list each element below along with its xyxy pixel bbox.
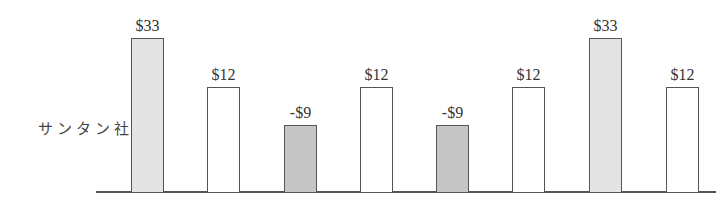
row-label: サンタン社 bbox=[38, 117, 133, 138]
bar-1 bbox=[131, 38, 164, 192]
bar-3 bbox=[284, 125, 317, 192]
bar-6 bbox=[512, 87, 545, 192]
bar-value-label: $12 bbox=[347, 66, 407, 84]
bar-4 bbox=[360, 87, 393, 192]
bar-value-label: $33 bbox=[118, 17, 178, 35]
bar-value-label: $12 bbox=[653, 66, 713, 84]
bar-value-label: -$9 bbox=[271, 104, 331, 122]
bar-value-label: $33 bbox=[576, 17, 636, 35]
bar-value-label: $12 bbox=[499, 66, 559, 84]
bar-value-label: -$9 bbox=[423, 104, 483, 122]
bar-7 bbox=[589, 38, 622, 192]
bar-2 bbox=[207, 87, 240, 192]
bar-value-label: $12 bbox=[194, 66, 254, 84]
x-axis-baseline bbox=[96, 191, 716, 193]
bar-8 bbox=[666, 87, 699, 192]
bar-chart: サンタン社 $33$12-$9$12-$9$12$33$12 bbox=[0, 0, 722, 224]
bar-5 bbox=[436, 125, 469, 192]
